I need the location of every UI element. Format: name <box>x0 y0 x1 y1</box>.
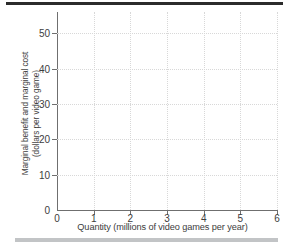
y-axis-tick <box>52 33 57 34</box>
gridline-horizontal <box>57 139 277 140</box>
gridline-vertical <box>130 12 131 210</box>
y-axis-title-line-1: Marginal benefit and marginal cost <box>20 14 31 214</box>
y-axis-tick <box>52 104 57 105</box>
y-axis-tick-label: 10 <box>28 169 50 180</box>
gridline-horizontal <box>57 69 277 70</box>
bottom-divider-rule <box>15 238 278 242</box>
y-axis-title: Marginal benefit and marginal cost (doll… <box>20 14 41 214</box>
y-axis-tick-label: 50 <box>28 28 50 39</box>
gridline-vertical <box>240 12 241 210</box>
top-divider-rule <box>6 2 283 5</box>
plot-area <box>57 12 277 210</box>
y-axis-tick <box>52 69 57 70</box>
y-axis-tick-label: 20 <box>28 134 50 145</box>
chart-figure: Marginal benefit and marginal cost (doll… <box>0 0 290 248</box>
y-axis-tick-label: 40 <box>28 63 50 74</box>
y-axis-tick-label: 30 <box>28 98 50 109</box>
gridline-vertical <box>277 12 278 210</box>
y-axis-tick <box>52 139 57 140</box>
gridline-horizontal <box>57 104 277 105</box>
y-axis-tick <box>52 175 57 176</box>
y-axis-title-line-2: (dollars per video game) <box>30 14 41 214</box>
gridline-vertical <box>167 12 168 210</box>
gridline-vertical <box>94 12 95 210</box>
x-axis-title: Quantity (millions of video games per ye… <box>40 222 285 232</box>
gridline-horizontal <box>57 175 277 176</box>
gridline-vertical <box>204 12 205 210</box>
gridline-horizontal <box>57 33 277 34</box>
